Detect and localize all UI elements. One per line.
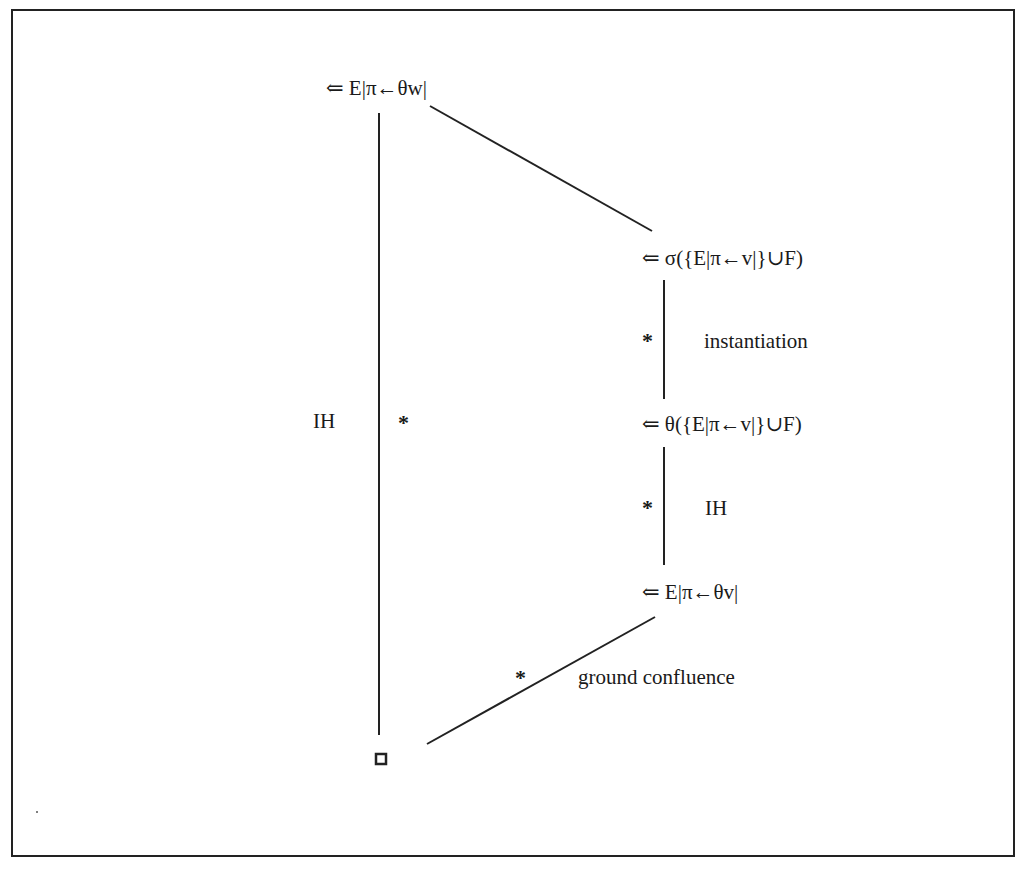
label-right-upper-star: * [642, 330, 653, 352]
label-ground-confluence: ground confluence [578, 667, 735, 688]
edge-top-diagonal [430, 106, 652, 231]
label-left-star: * [398, 412, 409, 434]
node-ev: ⇐ E|π←θv| [642, 582, 738, 603]
empty-clause-box [376, 754, 386, 764]
label-right-ih: IH [705, 498, 727, 519]
label-bottom-star: * [515, 667, 526, 689]
label-left-ih: IH [313, 411, 335, 432]
diagram-edges [0, 0, 1026, 872]
label-instantiation: instantiation [704, 331, 808, 352]
node-theta: ⇐ θ({E|π←v|}∪F) [642, 414, 802, 435]
node-top: ⇐ E|π←θw| [326, 78, 427, 99]
label-right-lower-star: * [642, 497, 653, 519]
node-sigma: ⇐ σ({E|π←v|}∪F) [642, 248, 803, 269]
